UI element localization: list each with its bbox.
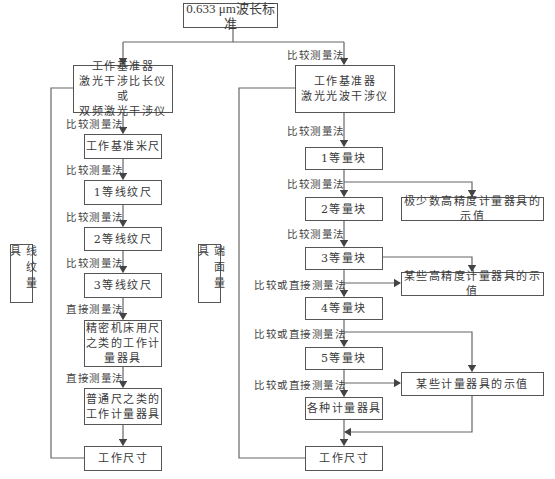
- right-method-5: 比较或直接测量法: [254, 326, 346, 341]
- left-box-5-label: 精密机床用尺 之类的工作计 量器具: [86, 321, 161, 366]
- line-gauge-label: 线纹量具: [6, 245, 38, 302]
- left-box-1: 工作基准米尺: [84, 134, 162, 159]
- left-method-1: 比较测量法: [66, 116, 124, 131]
- wavelength-standard-box: 0.633 μm波长标准: [183, 3, 278, 28]
- line-gauge-label-box: 线纹量具: [10, 244, 33, 303]
- end-gauge-label: 端面量具: [194, 245, 226, 302]
- right-box-3: 3等量块: [305, 247, 383, 270]
- side-box-3-label: 某些计量器具的示值: [416, 377, 529, 392]
- right-work-size-box: 工作尺寸: [305, 446, 383, 471]
- left-reference-box: 工作基准器 激光干涉比长仪或 双频激光干涉仪: [73, 65, 173, 113]
- right-box-1: 1等量块: [305, 147, 383, 170]
- right-method-1: 比较测量法: [287, 123, 345, 138]
- left-box-2: 1等线纹尺: [84, 180, 162, 205]
- right-box-5: 5等量块: [305, 347, 383, 370]
- right-method-3: 比较测量法: [287, 226, 345, 241]
- right-reference-label: 工作基准器 激光光波干涉仪: [301, 74, 389, 104]
- left-box-3-label: 2等线纹尺: [94, 232, 153, 247]
- left-box-1-label: 工作基准米尺: [86, 139, 161, 154]
- right-box-3-label: 3等量块: [321, 251, 367, 266]
- left-method-4: 比较测量法: [66, 255, 124, 270]
- right-method-4: 比较或直接测量法: [254, 277, 346, 292]
- side-box-2-label: 某些高精度计量器具的示值: [402, 269, 543, 299]
- left-box-2-label: 1等线纹尺: [94, 185, 153, 200]
- right-method-6: 比较或直接测量法: [254, 377, 346, 392]
- right-box-2: 2等量块: [305, 197, 383, 221]
- left-box-3: 2等线纹尺: [84, 227, 162, 251]
- right-box-6: 各种计量器具: [305, 397, 383, 420]
- left-reference-label: 工作基准器 激光干涉比长仪或 双频激光干涉仪: [74, 59, 172, 119]
- left-box-6: 普通尺之类的 工作计量器具: [84, 388, 162, 425]
- side-box-2: 某些高精度计量器具的示值: [401, 272, 544, 296]
- right-box-4: 4等量块: [305, 297, 383, 320]
- left-box-6-label: 普通尺之类的 工作计量器具: [86, 392, 161, 422]
- left-method-3: 比较测量法: [66, 209, 124, 224]
- right-box-5-label: 5等量块: [321, 351, 367, 366]
- right-method-2: 比较测量法: [287, 176, 345, 191]
- left-work-size-box: 工作尺寸: [84, 446, 162, 471]
- right-top-method: 比较测量法: [287, 47, 345, 62]
- end-gauge-label-box: 端面量具: [198, 244, 221, 303]
- left-method-2: 比较测量法: [66, 162, 124, 177]
- right-box-6-label: 各种计量器具: [307, 401, 382, 416]
- left-method-5: 直接测量法: [66, 301, 124, 316]
- wavelength-standard-label: 0.633 μm波长标准: [184, 1, 277, 31]
- right-work-size-label: 工作尺寸: [319, 451, 369, 466]
- left-work-size-label: 工作尺寸: [98, 451, 148, 466]
- right-box-1-label: 1等量块: [321, 151, 367, 166]
- left-box-4-label: 3等线纹尺: [94, 278, 153, 293]
- left-box-4: 3等线纹尺: [84, 273, 162, 298]
- left-method-6: 直接测量法: [66, 370, 124, 385]
- side-box-1-label: 极少数高精度计量器具的示值: [402, 194, 543, 224]
- right-box-2-label: 2等量块: [321, 202, 367, 217]
- right-box-4-label: 4等量块: [321, 301, 367, 316]
- side-box-3: 某些计量器具的示值: [401, 372, 544, 396]
- side-box-1: 极少数高精度计量器具的示值: [401, 197, 544, 221]
- right-reference-box: 工作基准器 激光光波干涉仪: [295, 65, 395, 113]
- left-box-5: 精密机床用尺 之类的工作计 量器具: [84, 320, 162, 367]
